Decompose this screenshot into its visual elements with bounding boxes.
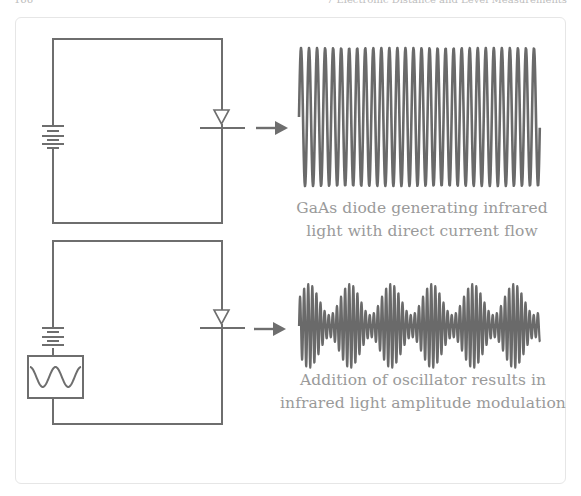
emission-arrow-icon	[254, 322, 286, 336]
bottom-circuit	[28, 241, 286, 424]
top-caption: GaAs diode generating infrared light wit…	[284, 197, 560, 243]
bottom-caption-line-2: infrared light amplitude modulation	[278, 392, 568, 415]
modulated-infrared-waveform	[299, 284, 540, 368]
emission-arrow-icon	[256, 121, 288, 135]
bottom-caption-line-1: Addition of oscillator results in	[278, 369, 568, 392]
battery-icon	[42, 126, 64, 148]
oscillator-icon	[28, 356, 83, 398]
top-circuit-wire	[53, 39, 222, 223]
battery-icon	[42, 328, 64, 345]
top-circuit	[42, 39, 288, 223]
led-diode-icon	[200, 310, 245, 328]
led-diode-icon	[200, 110, 245, 128]
top-caption-line-2: light with direct current flow	[284, 220, 560, 243]
top-caption-line-1: GaAs diode generating infrared	[284, 197, 560, 220]
continuous-infrared-waveform	[299, 48, 540, 186]
bottom-caption: Addition of oscillator results in infrar…	[278, 369, 568, 415]
figure-diagram	[0, 0, 581, 496]
